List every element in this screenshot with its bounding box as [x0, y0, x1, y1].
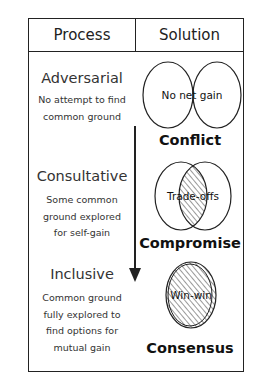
progress-arrow-icon	[129, 126, 141, 282]
trade-offs-label: Trade-offs	[166, 190, 219, 202]
no-net-gain-label: No net gain	[162, 89, 223, 101]
diagram-graphics: No net gain Trade-offs Win-win	[0, 0, 261, 386]
win-win-label: Win-win	[170, 289, 212, 301]
